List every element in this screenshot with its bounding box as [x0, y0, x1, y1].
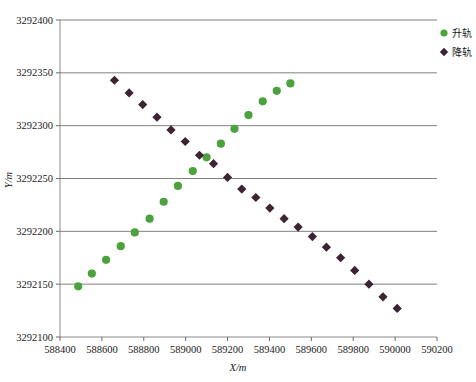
data-point: [244, 111, 252, 119]
legend-label: 升轨: [452, 27, 472, 39]
data-point: [125, 88, 134, 97]
data-point: [166, 125, 175, 134]
data-point: [230, 125, 238, 133]
series-ascending: [74, 79, 294, 290]
x-tick-label: 589600: [296, 344, 328, 355]
x-tick-label: 590200: [421, 344, 453, 355]
data-point: [364, 280, 373, 289]
data-point: [251, 193, 260, 202]
data-point: [160, 198, 168, 206]
data-point: [117, 242, 125, 250]
data-point: [203, 153, 211, 161]
data-point: [102, 256, 110, 264]
y-axis-tick-labels: 3292100329215032922003292250329230032923…: [16, 15, 53, 343]
data-point: [110, 76, 119, 85]
legend-marker-diamond: [440, 48, 448, 56]
data-point: [138, 100, 147, 109]
data-point: [174, 182, 182, 190]
data-point: [286, 79, 294, 87]
data-point: [223, 173, 232, 182]
data-point: [146, 215, 154, 223]
data-point: [181, 137, 190, 146]
x-tick-label: 589000: [170, 344, 202, 355]
y-tick-label: 3292150: [16, 279, 53, 290]
gridlines: [60, 20, 437, 284]
data-point: [259, 97, 267, 105]
x-tick-label: 588600: [86, 344, 118, 355]
data-point: [189, 167, 197, 175]
data-point: [294, 223, 303, 232]
data-point: [378, 292, 387, 301]
data-point: [217, 140, 225, 148]
chart-canvas: 5884005886005888005890005892005894005896…: [0, 0, 476, 382]
data-point: [237, 184, 246, 193]
x-axis-title: X/m: [229, 362, 247, 373]
y-tick-label: 3292100: [16, 332, 53, 343]
data-point: [131, 228, 139, 236]
series-descending: [110, 76, 402, 313]
data-point: [74, 282, 82, 290]
data-point: [280, 214, 289, 223]
data-point: [265, 203, 274, 212]
x-tick-label: 589200: [212, 344, 244, 355]
chart-legend: 升轨降轨: [440, 27, 472, 58]
data-point: [322, 243, 331, 252]
data-point: [152, 113, 161, 122]
y-tick-label: 3292200: [16, 226, 53, 237]
y-tick-label: 3292250: [16, 173, 53, 184]
legend-label: 降轨: [452, 46, 472, 58]
x-tick-label: 590000: [379, 344, 411, 355]
y-tick-label: 3292400: [16, 15, 53, 26]
data-point: [393, 304, 402, 313]
data-point: [209, 159, 218, 168]
x-tick-label: 588400: [44, 344, 76, 355]
x-tick-label: 589400: [254, 344, 286, 355]
data-series: [74, 76, 402, 313]
y-axis-ticks: [56, 20, 60, 337]
x-axis-tick-labels: 5884005886005888005890005892005894005896…: [44, 344, 453, 355]
y-axis-title: Y/m: [3, 171, 14, 188]
x-tick-label: 588800: [128, 344, 160, 355]
data-point: [308, 232, 317, 241]
y-tick-label: 3292350: [16, 67, 53, 78]
data-point: [88, 270, 96, 278]
scatter-chart: 5884005886005888005890005892005894005896…: [0, 0, 476, 382]
x-axis-ticks: [60, 337, 437, 341]
y-tick-label: 3292300: [16, 120, 53, 131]
legend-marker-circle: [440, 29, 447, 36]
data-point: [336, 253, 345, 262]
x-tick-label: 589800: [337, 344, 369, 355]
data-point: [350, 266, 359, 275]
data-point: [273, 87, 281, 95]
